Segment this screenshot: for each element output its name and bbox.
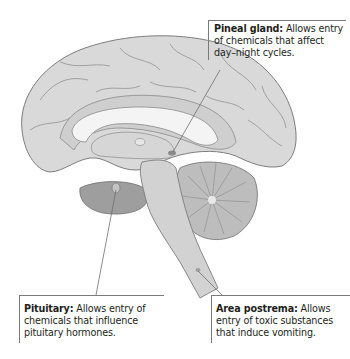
callout-term: Area postrema: xyxy=(216,303,298,314)
callout-pineal-gland: Pineal gland: Allows entry of chemicals … xyxy=(208,20,346,60)
callout-term: Pineal gland: xyxy=(214,23,283,34)
callout-pituitary: Pituitary: Allows entry of chemicals tha… xyxy=(19,295,164,343)
callout-term: Pituitary: xyxy=(24,303,73,314)
callout-area-postrema: Area postrema: Allows entry of toxic sub… xyxy=(211,295,350,343)
pineal-gland xyxy=(168,151,176,156)
